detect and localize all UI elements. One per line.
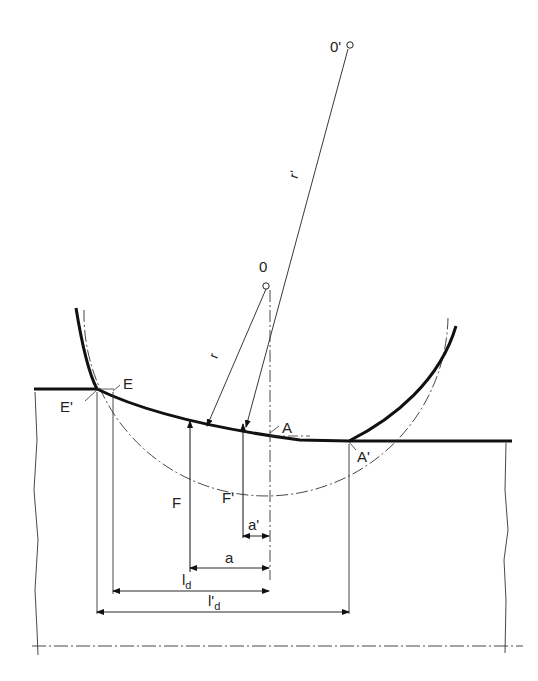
- radius-r-prime-line: [246, 49, 348, 427]
- label-r: r: [206, 350, 222, 360]
- label-a: a: [225, 549, 234, 566]
- center-O-prime-marker: [347, 42, 353, 48]
- workpiece: [32, 389, 523, 655]
- center-O-marker: [263, 283, 269, 289]
- label-l-d: ld: [182, 571, 191, 591]
- label-F-prime: F': [222, 489, 234, 506]
- label-O-prime: 0': [330, 38, 341, 55]
- label-E-prime: E': [60, 398, 73, 415]
- label-E: E: [123, 375, 133, 392]
- leader-E-prime: [85, 390, 97, 401]
- leader-A: [270, 426, 279, 433]
- leader-E: [113, 385, 120, 391]
- rigid-roll-arc: [84, 310, 448, 496]
- roll-bite-diagram: 0' 0 E E' A A' r r' F F' a' a ld l'd: [0, 0, 538, 681]
- label-r-prime: r': [286, 169, 302, 180]
- exit-break-edge: [504, 443, 508, 653]
- entry-break-edge: [34, 392, 38, 655]
- leader-A-prime: [349, 442, 356, 450]
- label-F: F: [172, 494, 181, 511]
- diagram-canvas: 0' 0 E E' A A' r r' F F' a' a ld l'd: [0, 0, 538, 681]
- label-A-prime: A': [357, 448, 370, 465]
- label-A: A: [282, 419, 292, 436]
- label-a-prime: a': [248, 516, 259, 533]
- label-O: 0: [259, 258, 267, 275]
- label-l-prime-d: l'd: [208, 592, 220, 612]
